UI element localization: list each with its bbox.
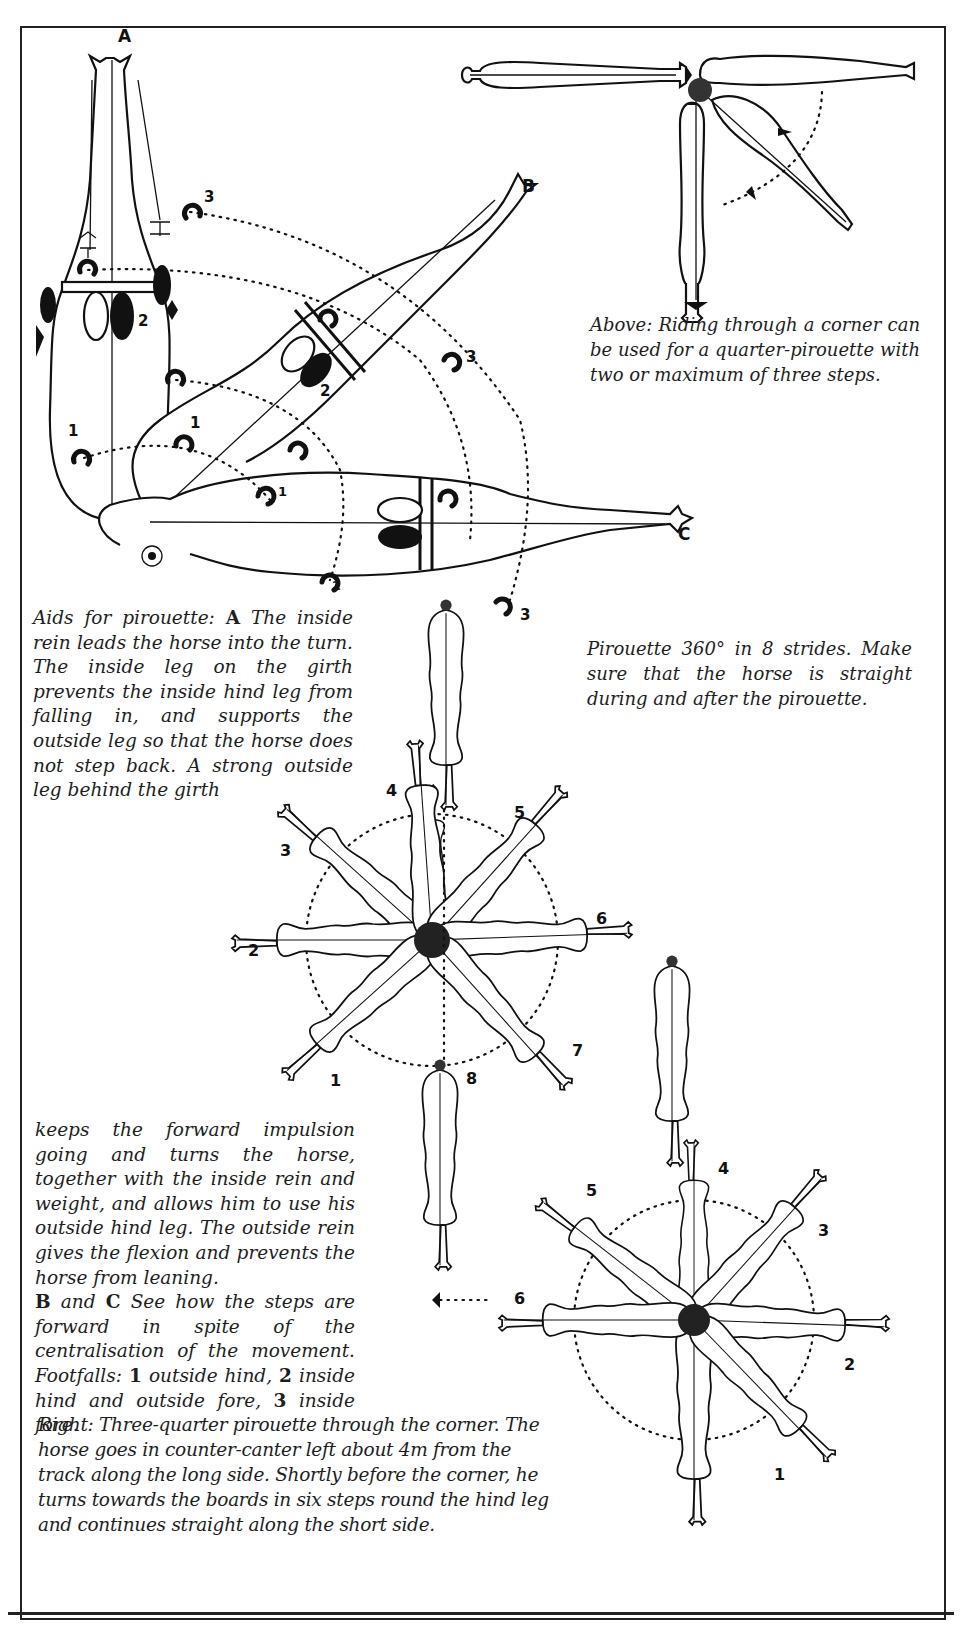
svg-text:1: 1	[190, 414, 200, 432]
caption-aids-for-pirouette: Aids for pirouette: A The inside rein le…	[33, 606, 353, 803]
svg-text:8: 8	[466, 1069, 477, 1088]
footfall-3: 3	[274, 1390, 287, 1411]
footfall-1-text: outside hind,	[149, 1365, 272, 1386]
three-quarter-entry-horse	[432, 956, 690, 1308]
svg-text:1: 1	[68, 422, 78, 440]
svg-text:3: 3	[204, 188, 214, 206]
svg-text:3: 3	[280, 841, 291, 860]
caption-three-quarter-pirouette: Right: Three-quarter pirouette through t…	[38, 1412, 558, 1537]
svg-text:1: 1	[330, 1071, 341, 1090]
caption-quarter-pirouette: Above: Riding through a corner can be us…	[590, 312, 920, 387]
svg-text:1: 1	[774, 1465, 785, 1484]
footfall-1: 1	[129, 1365, 142, 1386]
caption-aids-intro: Aids for pirouette:	[33, 607, 215, 628]
caption-aids-text: The inside rein leads the horse into the…	[33, 607, 353, 800]
svg-text:3: 3	[466, 348, 476, 366]
caption-and: and	[61, 1291, 96, 1312]
svg-text:5: 5	[514, 803, 525, 822]
caption-continued-text: keeps the forward impulsion going and tu…	[35, 1119, 355, 1288]
caption-label-c: C	[106, 1291, 121, 1312]
svg-text:3: 3	[818, 1221, 829, 1240]
svg-text:7: 7	[572, 1041, 583, 1060]
figure-label-a: A	[118, 26, 132, 46]
footfall-2: 2	[279, 1365, 292, 1386]
svg-text:3: 3	[520, 606, 530, 624]
figure-label-b: B	[522, 176, 535, 196]
svg-text:6: 6	[596, 909, 607, 928]
svg-text:2: 2	[332, 578, 341, 593]
caption-pirouette-360: Pirouette 360° in 8 strides. Make sure t…	[587, 636, 912, 711]
svg-text:5: 5	[586, 1181, 597, 1200]
caption-label-b: B	[35, 1291, 51, 1312]
svg-text:2: 2	[320, 382, 330, 400]
caption-aids-label-a: A	[226, 607, 240, 628]
caption-aids-continued: keeps the forward impulsion going and tu…	[35, 1118, 355, 1438]
svg-text:2: 2	[138, 312, 148, 330]
svg-text:2: 2	[844, 1355, 855, 1374]
svg-text:4: 4	[386, 781, 397, 800]
svg-text:6: 6	[514, 1289, 525, 1308]
figure-label-c: C	[678, 524, 690, 544]
svg-text:1: 1	[278, 484, 287, 499]
svg-text:4: 4	[718, 1159, 729, 1178]
svg-text:2: 2	[248, 941, 259, 960]
